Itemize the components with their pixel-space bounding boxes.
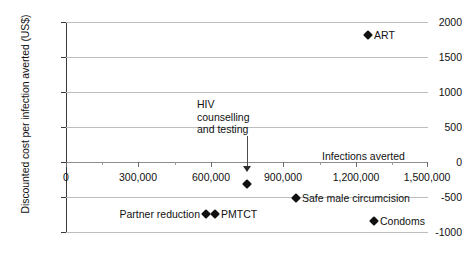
x-tick-mark-0 [66,162,67,167]
x-tick-label-1200000: 1,200,000 [333,171,380,183]
x-tick-mark-300000 [138,162,139,167]
data-point-safe-male-circumcision [291,193,301,203]
x-tick-minor-450000 [175,162,176,165]
y-tick-mark-500 [61,127,66,128]
x-tick-label-300000: 300,000 [119,171,157,183]
y-tick-mark-1500 [61,57,66,58]
annotation-hiv-counselling-and-testing: HIV counselling and testing [197,98,250,136]
annotation-arrow-icon [243,166,251,172]
gridline-2000 [66,22,428,23]
y-tick-mark-neg500 [61,197,66,198]
gridline-1500 [66,57,428,58]
y-tick-mark-2000 [61,22,66,23]
data-point-hiv-counselling-and-testing [242,179,252,189]
data-label-partner-reduction: Partner reduction [119,208,200,220]
gridline-neg1000 [66,232,428,233]
scatter-chart: Discounted cost per infection averted (U… [0,0,462,261]
x-tick-label-0: 0 [63,171,69,183]
data-label-art: ART [374,29,395,41]
x-tick-mark-600000 [211,162,212,167]
x-tick-mark-1200000 [356,162,357,167]
x-tick-mark-1500000 [427,162,428,167]
data-point-condoms [369,216,379,226]
annotation-leader-line [247,136,248,168]
y-axis-title: Discounted cost per infection averted (U… [19,4,31,224]
annotation-line-3: and testing [197,123,250,136]
data-label-pmtct: PMTCT [221,208,257,220]
annotation-line-2: counselling [197,111,250,124]
x-tick-mark-900000 [283,162,284,167]
gridline-1000 [66,92,428,93]
y-tick-mark-neg1000 [61,232,66,233]
data-label-safe-male-circumcision: Safe male circumcision [302,192,410,204]
annotation-line-1: HIV [197,98,250,111]
x-tick-minor-150000 [102,162,103,165]
x-tick-label-600000: 600,000 [192,171,230,183]
x-tick-minor-1350000 [392,162,393,165]
x-tick-minor-1050000 [320,162,321,165]
data-point-art [363,30,373,40]
data-point-pmtct [210,209,220,219]
data-label-condoms: Condoms [380,215,425,227]
x-tick-label-1500000: 1,500,000 [404,171,451,183]
y-tick-mark-1000 [61,92,66,93]
x-tick-label-900000: 900,000 [264,171,302,183]
data-point-partner-reduction [201,209,211,219]
